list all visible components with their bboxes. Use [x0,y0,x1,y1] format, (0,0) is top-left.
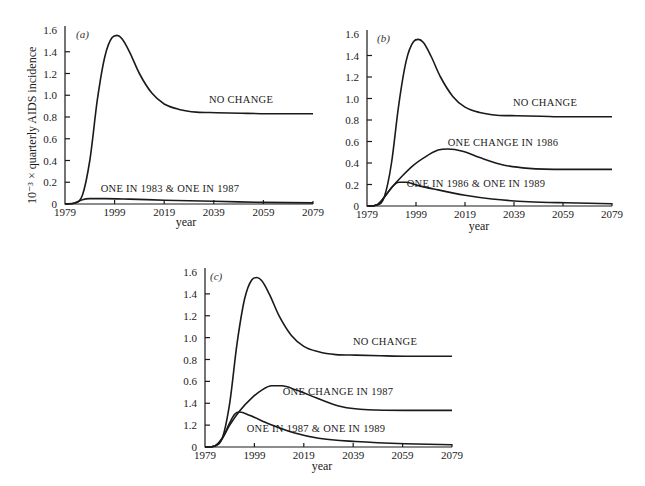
series-label: ONE CHANGE IN 1986 [448,137,559,148]
x-axis-title: year [469,219,490,233]
y-tick-label: 1.2 [183,419,197,431]
x-tick-label: 2039 [203,206,226,218]
y-tick-label: 1.2 [183,310,197,322]
panel-tag: (c) [210,270,223,283]
x-tick-label: 2059 [552,208,575,220]
series-line [65,35,313,204]
y-tick-label: 0.8 [43,111,57,123]
x-tick-label: 2059 [252,206,275,218]
x-tick-label: 1979 [194,449,217,461]
panel-tag: (a) [76,28,89,41]
x-axis-title: year [312,459,333,473]
panel-tag: (b) [377,32,390,45]
y-tick-label: 1.0 [183,332,197,344]
y-tick-label: 1.4 [43,46,57,58]
series-label: NO CHANGE [209,94,273,105]
y-tick-label: 0.6 [43,133,57,145]
y-tick-label: 0.2 [43,176,57,188]
y-tick-label: 1.2 [345,71,359,83]
x-tick-label: 1999 [243,449,266,461]
y-tick-label: 1.4 [183,288,197,300]
x-tick-label: 1979 [54,206,77,218]
series-line [65,199,313,204]
y-tick-label: 0.4 [345,157,359,169]
x-tick-label: 2039 [503,208,526,220]
y-tick-label: 1.6 [183,266,197,278]
series-line [205,278,452,448]
y-tick-label: 1.6 [345,28,359,40]
x-tick-label: 2039 [342,449,365,461]
series-label: ONE IN 1983 & ONE IN 1987 [101,183,240,194]
panel-a: 00.20.40.60.81.01.21.41.6197919992019203… [43,24,324,229]
axes-lines [65,26,313,204]
y-tick-label: 0.6 [183,375,197,387]
y-tick-label: 1.4 [183,397,197,409]
panel-c: 01.21.40.60.81.01.21.41.6197919992019203… [183,266,463,473]
x-tick-label: 2079 [441,449,464,461]
x-axis-title: year [176,215,197,229]
x-tick-label: 1979 [356,208,379,220]
y-tick-label: 1.0 [345,93,359,105]
y-tick-label: 0.2 [345,179,359,191]
x-tick-label: 2079 [601,208,624,220]
series-label: ONE CHANGE IN 1987 [283,386,394,397]
y-tick-label: 1.6 [43,24,57,36]
x-tick-label: 2079 [302,206,325,218]
y-tick-label: 0.4 [43,155,57,167]
figure-canvas: 10⁻³ × quarterly AIDS incidence 00.20.40… [0,0,645,486]
x-tick-label: 2059 [392,449,415,461]
series-label: NO CHANGE [513,97,577,108]
series-label: ONE IN 1986 & ONE IN 1989 [407,178,546,189]
y-tick-label: 0.8 [345,114,359,126]
series-label: ONE IN 1987 & ONE IN 1989 [247,423,386,434]
x-tick-label: 1999 [104,206,127,218]
y-tick-label: 0.8 [183,354,197,366]
series-label: NO CHANGE [353,336,417,347]
panel-b: 00.20.40.60.81.01.21.41.6197919992019203… [345,28,623,233]
axes-lines [205,268,452,447]
x-tick-label: 1999 [405,208,428,220]
x-tick-label: 2019 [153,206,176,218]
y-tick-label: 1.2 [43,68,57,80]
y-tick-label: 0.6 [345,136,359,148]
y-axis-title: 10⁻³ × quarterly AIDS incidence [25,47,39,204]
y-tick-label: 1.0 [43,89,57,101]
y-tick-label: 1.4 [345,50,359,62]
